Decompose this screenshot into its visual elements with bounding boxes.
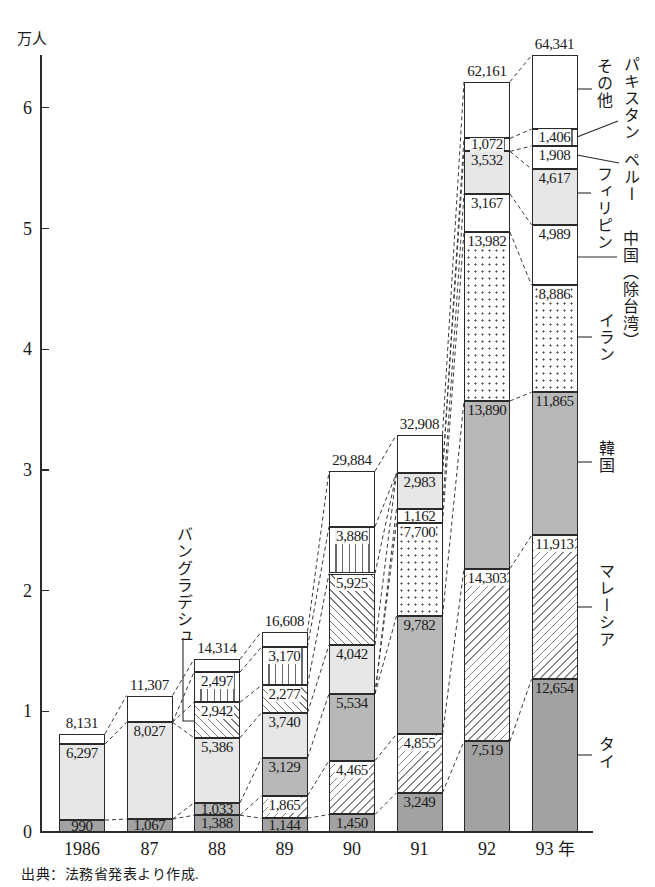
y-tick-label: 0 <box>10 823 32 841</box>
bar-segment-other <box>329 471 375 526</box>
bar-segment-korea: 13,890 <box>464 401 510 569</box>
segment-value-label: 5,534 <box>330 696 374 711</box>
segment-value-label: 3,740 <box>263 715 307 730</box>
bar-segment-pakistan: 2,497 <box>194 672 240 702</box>
y-tick-label: 4 <box>10 340 32 358</box>
bar-segment-malaysia: 11,913 <box>532 535 578 679</box>
bar-total-label: 11,307 <box>117 678 183 693</box>
bar-segment-thai: 12,654 <box>532 679 578 832</box>
bar-segment-malaysia: 4,855 <box>397 734 443 793</box>
segment-value-label: 3,886 <box>330 529 374 544</box>
segment-value-label: 1,388 <box>195 816 239 831</box>
bar-total-label: 8,131 <box>49 716 115 731</box>
segment-value-label: 9,782 <box>398 618 442 633</box>
bar-segment-philippines: 2,983 <box>397 473 443 509</box>
y-tick <box>40 107 49 108</box>
x-tick-label: 91 <box>385 840 455 858</box>
source-note: 出典：法務省発表より作成. <box>21 866 199 884</box>
bar-segment-other <box>59 734 105 744</box>
y-tick <box>40 590 49 591</box>
x-tick-label: 92 <box>452 840 522 858</box>
segment-value-label: 4,465 <box>330 763 374 778</box>
y-axis-line <box>40 55 42 832</box>
bar-total-label: 14,314 <box>184 641 250 656</box>
legend-label-pakistan: パキスタン <box>621 56 639 141</box>
bar-segment-other <box>532 55 578 129</box>
bar-segment-pakistan: 3,886 <box>329 527 375 574</box>
bar-segment-bangladesh: 2,277 <box>262 685 308 712</box>
bar-segment-philippines: 6,297 <box>59 744 105 820</box>
bar-segment-philippines: 4,617 <box>532 169 578 225</box>
legend-label-korea: 韓国 <box>596 440 614 474</box>
bar-segment-philippines: 5,386 <box>194 738 240 803</box>
segment-value-label: 1,033 <box>195 802 239 817</box>
legend-label-philippines: フィリピン <box>594 166 612 251</box>
segment-value-label: 5,386 <box>195 740 239 755</box>
segment-value-label: 14,303 <box>465 571 509 586</box>
bar-segment-korea: 5,534 <box>329 694 375 761</box>
bar-segment-pakistan: 1,406 <box>532 129 578 146</box>
bar-segment-other <box>194 659 240 672</box>
x-tick-label: 87 <box>115 840 185 858</box>
segment-value-label: 4,617 <box>533 171 577 186</box>
chart-figure: 万人 0123456 9906,2978,1311,0678,02711,307… <box>0 0 655 887</box>
segment-value-label: 1,908 <box>533 148 577 163</box>
segment-value-label: 2,497 <box>195 674 239 689</box>
segment-value-label: 2,983 <box>398 475 442 490</box>
legend-label-peru: ペルー <box>621 152 639 203</box>
segment-value-label: 3,129 <box>263 760 307 775</box>
segment-value-label: 8,027 <box>128 724 172 739</box>
bar-segment-china: 4,989 <box>532 225 578 285</box>
bar-total-label: 16,608 <box>252 614 318 629</box>
bar-segment-china: 1,162 <box>397 509 443 523</box>
bar-segment-bangladesh: 5,925 <box>329 574 375 646</box>
y-tick-label: 1 <box>10 702 32 720</box>
bar-segment-other <box>127 696 173 723</box>
legend-label-other: その他 <box>594 58 612 109</box>
bar-segment-thai: 1,144 <box>262 818 308 832</box>
segment-value-label: 3,532 <box>465 153 509 168</box>
y-axis-unit-label: 万人 <box>17 30 47 48</box>
y-tick <box>40 228 49 229</box>
bar-segment-other <box>464 82 510 139</box>
bar-segment-other <box>262 632 308 647</box>
segment-value-label: 1,072 <box>465 137 509 152</box>
bar-segment-china: 3,167 <box>464 194 510 232</box>
bar-segment-philippines: 3,532 <box>464 151 510 194</box>
bar-segment-malaysia: 4,465 <box>329 761 375 815</box>
bar-segment-malaysia: 1,865 <box>262 796 308 819</box>
segment-value-label: 1,450 <box>330 816 374 831</box>
y-tick <box>40 349 49 350</box>
x-axis-unit-label: 年 <box>554 840 575 859</box>
x-tick-label: 89 <box>250 840 320 858</box>
bar-segment-philippines: 4,042 <box>329 645 375 694</box>
bar-segment-iran: 8,886 <box>532 285 578 392</box>
bar-total-label: 32,908 <box>387 417 453 432</box>
bar-segment-bangladesh: 2,942 <box>194 702 240 738</box>
bar-segment-peru: 1,908 <box>532 146 578 169</box>
segment-value-label: 8,886 <box>533 287 577 302</box>
segment-value-label: 1,406 <box>533 130 577 145</box>
segment-value-label: 4,042 <box>330 647 374 662</box>
segment-value-label: 13,890 <box>465 403 509 418</box>
bar-segment-korea: 1,033 <box>194 803 240 815</box>
x-axis-line <box>40 831 593 833</box>
bar-segment-thai: 7,519 <box>464 741 510 832</box>
segment-value-label: 7,700 <box>398 525 442 540</box>
segment-value-label: 3,170 <box>263 649 307 664</box>
bar-segment-korea: 11,865 <box>532 392 578 535</box>
bar-segment-pakistan: 1,072 <box>464 138 510 151</box>
segment-value-label: 7,519 <box>465 743 509 758</box>
segment-value-label: 1,162 <box>398 509 442 524</box>
y-tick-label: 3 <box>10 461 32 479</box>
bar-segment-other <box>397 435 443 473</box>
legend-label-china: 中国（除台湾） <box>620 230 638 349</box>
segment-value-label: 1,865 <box>263 798 307 813</box>
x-tick-label: 88 <box>182 840 252 858</box>
y-tick-label: 5 <box>10 220 32 238</box>
bar-total-label: 62,161 <box>454 64 520 79</box>
legend-label-thai: タイ <box>596 736 614 770</box>
bar-segment-thai: 3,249 <box>397 793 443 832</box>
bar-segment-iran: 13,982 <box>464 232 510 401</box>
segment-value-label: 3,167 <box>465 196 509 211</box>
